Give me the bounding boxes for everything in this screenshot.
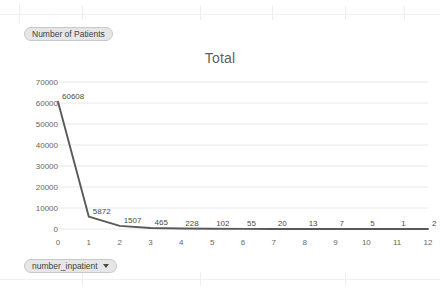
data-point-label: 2	[432, 219, 436, 228]
data-point-label: 1507	[124, 216, 142, 225]
data-point-label: 102	[216, 219, 229, 228]
dimension-pill-label: number_inpatient	[32, 262, 98, 271]
data-point-label: 5	[370, 219, 374, 228]
data-point-label: 55	[247, 219, 256, 228]
data-point-label: 228	[185, 219, 198, 228]
data-point-label: 1	[401, 219, 405, 228]
chevron-down-icon[interactable]	[103, 264, 109, 268]
data-point-label: 13	[309, 219, 318, 228]
plot-area: 010000200003000040000500006000070000 012…	[0, 0, 440, 293]
dimension-pill-number-inpatient[interactable]: number_inpatient	[24, 259, 117, 273]
data-point-label: 60608	[62, 92, 84, 101]
data-point-label: 20	[278, 219, 287, 228]
data-point-label: 7	[340, 219, 344, 228]
data-point-label: 465	[155, 218, 168, 227]
data-point-labels: 60608587215074652281025520137512	[0, 0, 440, 293]
data-point-label: 5872	[93, 207, 111, 216]
chart-canvas: Number of Patients Total 010000200003000…	[0, 0, 440, 293]
